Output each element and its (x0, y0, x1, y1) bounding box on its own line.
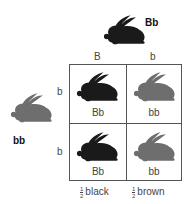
cell-3-genotype: Bb (70, 166, 126, 177)
cell-1-rabbit-icon (76, 71, 120, 103)
cell-2-rabbit-icon (133, 71, 177, 103)
parent-top-rabbit-icon (103, 14, 147, 46)
result-black: 12black (80, 186, 109, 199)
fraction-brown: 12 (132, 186, 135, 199)
punnett-square: Bb bb Bb bb (69, 64, 182, 181)
gamete-left-2: b (57, 147, 63, 157)
grid-divider-horizontal (70, 123, 181, 124)
result-brown: 12brown (132, 186, 165, 199)
cell-4-rabbit-icon (133, 131, 177, 163)
gamete-left-1: b (57, 87, 63, 97)
fraction-black: 12 (80, 186, 83, 199)
cell-2-genotype: bb (126, 107, 182, 118)
gamete-top-2: b (150, 52, 156, 62)
cell-1-genotype: Bb (70, 107, 126, 118)
parent-left-rabbit-icon (10, 92, 54, 124)
cell-3-rabbit-icon (76, 131, 120, 163)
gamete-top-1: B (94, 52, 101, 62)
parent-left-genotype: bb (13, 136, 25, 146)
parent-top-genotype: Bb (145, 18, 158, 28)
cell-4-genotype: bb (126, 166, 182, 177)
